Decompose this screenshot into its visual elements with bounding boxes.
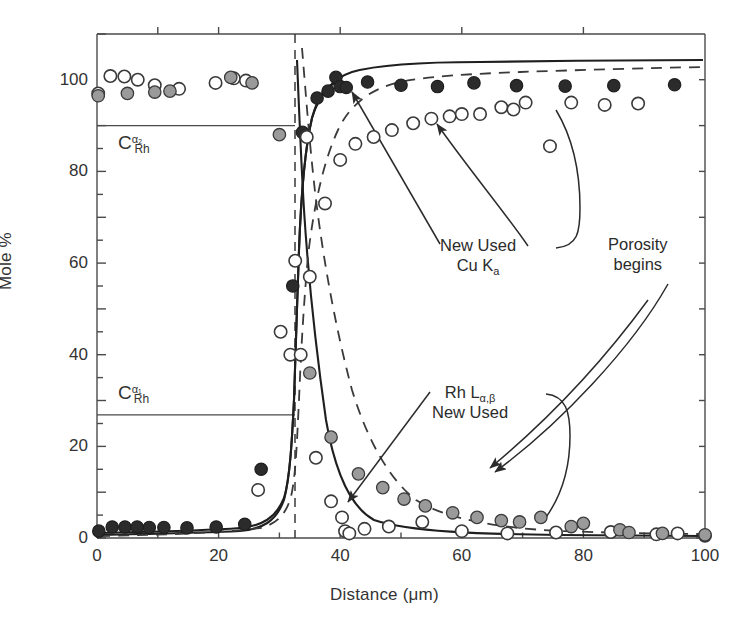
data-point bbox=[386, 124, 398, 136]
y-tick-label-0: 0 bbox=[58, 528, 88, 548]
data-point bbox=[565, 520, 577, 532]
data-point bbox=[501, 527, 513, 539]
data-point bbox=[407, 117, 419, 129]
data-point bbox=[274, 326, 286, 338]
data-point bbox=[252, 484, 264, 496]
data-point bbox=[106, 521, 118, 533]
c-rh-alpha1-base: C bbox=[118, 382, 132, 403]
data-point bbox=[495, 514, 507, 526]
data-point bbox=[287, 280, 299, 292]
data-point bbox=[361, 76, 373, 88]
annotation-rh-l-alpha-beta: Rh Lα,β New Used bbox=[432, 382, 508, 422]
data-point bbox=[304, 367, 316, 379]
data-point bbox=[550, 526, 562, 538]
c-rh-alpha2-sub: Rh bbox=[134, 142, 149, 156]
data-point bbox=[352, 468, 364, 480]
axis-ticks bbox=[97, 27, 705, 538]
data-point bbox=[395, 79, 407, 91]
data-point bbox=[121, 87, 133, 99]
data-point bbox=[311, 92, 323, 104]
data-point bbox=[294, 348, 306, 360]
data-point bbox=[632, 97, 644, 109]
annotation-porosity-begins: Porosity begins bbox=[608, 234, 668, 274]
data-point bbox=[118, 70, 130, 82]
annotation-cu-k-alpha: New Used Cu Ka bbox=[440, 235, 516, 275]
data-point bbox=[225, 71, 237, 83]
c-rh-alpha2-label: Cα₂Rh bbox=[118, 132, 150, 154]
data-point bbox=[304, 271, 316, 283]
data-point bbox=[513, 516, 525, 528]
annotation-rh-l-alpha-beta-line2: New Used bbox=[432, 402, 508, 422]
data-point bbox=[559, 80, 571, 92]
annotation-rh-l-alpha-beta-line1: Rh Lα,β bbox=[432, 382, 508, 402]
data-point bbox=[377, 481, 389, 493]
data-point bbox=[343, 527, 355, 539]
x-tick-label-0: 0 bbox=[92, 546, 101, 566]
data-point bbox=[158, 521, 170, 533]
data-point bbox=[383, 520, 395, 532]
data-point bbox=[456, 525, 468, 537]
y-tick-label-40: 40 bbox=[48, 345, 88, 365]
data-point bbox=[104, 70, 116, 82]
data-point bbox=[149, 86, 161, 98]
curve-cu-new-solid bbox=[99, 60, 703, 533]
plot-canvas bbox=[0, 0, 752, 628]
c-rh-alpha2-base: C bbox=[118, 132, 132, 153]
c-rh-alpha1-sub: Rh bbox=[134, 392, 149, 406]
data-point bbox=[93, 525, 105, 537]
data-point bbox=[431, 80, 443, 92]
x-tick-label-100: 100 bbox=[691, 546, 719, 566]
x-tick-label-80: 80 bbox=[574, 546, 593, 566]
data-point bbox=[319, 197, 331, 209]
x-tick-label-40: 40 bbox=[331, 546, 350, 566]
plot-frame bbox=[97, 34, 705, 538]
annotation-cu-k-alpha-line1: New Used bbox=[440, 235, 516, 255]
data-point bbox=[419, 500, 431, 512]
data-point bbox=[334, 154, 346, 166]
annotation-cu-k-alpha-line2: Cu Ka bbox=[440, 255, 516, 275]
data-point bbox=[416, 516, 428, 528]
curve-rh-used-dashed bbox=[302, 48, 703, 534]
y-tick-label-80: 80 bbox=[48, 161, 88, 181]
data-point bbox=[181, 522, 193, 534]
data-point bbox=[544, 140, 556, 152]
data-point bbox=[668, 79, 680, 91]
data-point bbox=[340, 81, 352, 93]
curve-cu-used-dashed bbox=[99, 67, 703, 536]
data-point bbox=[358, 523, 370, 535]
data-point bbox=[92, 90, 104, 102]
data-point bbox=[446, 507, 458, 519]
brace-rh-l-alpha-beta bbox=[544, 394, 570, 520]
data-point bbox=[336, 511, 348, 523]
data-point bbox=[495, 101, 507, 113]
data-point bbox=[598, 99, 610, 111]
chart-figure: 0 20 40 60 80 100 0 20 40 60 80 100 Dist… bbox=[0, 0, 752, 628]
data-point bbox=[132, 74, 144, 86]
data-point bbox=[325, 495, 337, 507]
data-point bbox=[519, 96, 531, 108]
data-point bbox=[164, 85, 176, 97]
data-point bbox=[656, 527, 668, 539]
data-point bbox=[425, 112, 437, 124]
data-markers bbox=[92, 70, 711, 542]
annotation-porosity-line1: Porosity bbox=[608, 234, 668, 254]
data-point bbox=[443, 110, 455, 122]
data-point bbox=[623, 526, 635, 538]
data-point bbox=[209, 77, 221, 89]
data-point bbox=[468, 77, 480, 89]
x-tick-label-60: 60 bbox=[452, 546, 471, 566]
leader-porosity-1 bbox=[495, 284, 668, 472]
y-axis-title: Mole % bbox=[0, 232, 16, 290]
y-tick-label-100: 100 bbox=[34, 70, 88, 90]
data-point bbox=[535, 511, 547, 523]
leader-rh-used-upper bbox=[437, 124, 528, 246]
brace-cu-k-alpha bbox=[556, 110, 580, 248]
data-point bbox=[143, 521, 155, 533]
data-point bbox=[325, 431, 337, 443]
data-point bbox=[565, 96, 577, 108]
data-point bbox=[289, 255, 301, 267]
data-point bbox=[246, 77, 258, 89]
data-point bbox=[608, 79, 620, 91]
y-tick-label-60: 60 bbox=[48, 253, 88, 273]
annotation-porosity-line2: begins bbox=[608, 254, 668, 274]
